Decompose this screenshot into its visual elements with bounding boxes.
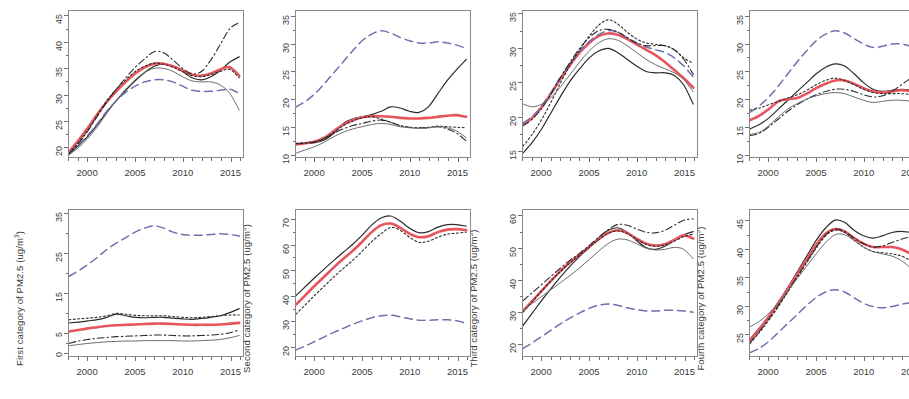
series-line-blue-long-dash: [69, 226, 239, 277]
x-tick-mark: [183, 357, 184, 361]
x-tick-label: 2005: [351, 167, 372, 178]
x-tick-mark-minor: [173, 357, 174, 360]
x-tick-mark: [816, 158, 817, 162]
x-tick-mark: [541, 357, 542, 361]
y-tick-label: 40: [54, 41, 64, 51]
x-tick-mark-minor: [902, 158, 903, 161]
panel-1: First category of PM2.5 (ug/m3)202530354…: [0, 0, 227, 199]
x-tick-label: 2005: [578, 366, 599, 377]
plot-frame: [522, 10, 698, 158]
series-line-blue-long-dash: [750, 31, 909, 113]
series-canvas: [523, 210, 697, 356]
x-tick-mark-minor: [656, 357, 657, 360]
x-tick-mark: [314, 158, 315, 162]
x-tick-mark-minor: [400, 357, 401, 360]
x-tick-mark-minor: [78, 158, 79, 161]
x-tick-label: 2010: [626, 366, 647, 377]
y-tick-label: 20: [54, 146, 64, 156]
series-line-black-dotted: [69, 313, 239, 319]
y-tick-label: 25: [54, 252, 64, 262]
series-canvas: [69, 11, 243, 157]
x-tick-mark-minor: [343, 158, 344, 161]
series-line-black-solid: [296, 59, 466, 143]
y-tick-label: 25: [735, 70, 745, 80]
x-tick-mark: [768, 158, 769, 162]
x-tick-mark-minor: [381, 357, 382, 360]
x-tick-mark-minor: [797, 357, 798, 360]
x-tick-label: 2015: [901, 167, 909, 178]
y-tick-label: 35: [54, 67, 64, 77]
plot-frame: [68, 10, 244, 158]
series-line-red-thick-solid: [69, 323, 239, 332]
y-tick-label: 30: [54, 94, 64, 104]
plot-frame: [295, 10, 471, 158]
x-tick-mark: [135, 158, 136, 162]
series-line-black-dotted: [296, 117, 466, 143]
x-tick-mark-minor: [532, 158, 533, 161]
x-tick-mark-minor: [68, 357, 69, 360]
x-tick-label: 2005: [351, 366, 372, 377]
x-axis: 2000200520102015: [522, 158, 698, 184]
x-tick-mark: [637, 158, 638, 162]
y-tick-label: 15: [281, 126, 291, 136]
x-tick-mark-minor: [656, 158, 657, 161]
y-tick-label: 30: [735, 305, 745, 315]
x-tick-mark-minor: [352, 357, 353, 360]
series-line-black-solid: [69, 309, 239, 323]
x-tick-mark-minor: [560, 158, 561, 161]
x-tick-mark-minor: [646, 158, 647, 161]
x-tick-mark-minor: [192, 357, 193, 360]
x-tick-mark: [589, 158, 590, 162]
x-tick-mark-minor: [391, 357, 392, 360]
x-tick-label: 2010: [399, 167, 420, 178]
series-line-red-thick-solid: [523, 230, 693, 311]
x-tick-mark-minor: [883, 357, 884, 360]
x-tick-mark-minor: [826, 357, 827, 360]
y-axis-ticks: 101520253035: [265, 10, 295, 158]
y-axis-ticks: 2030405060: [492, 209, 522, 357]
x-tick-mark-minor: [372, 158, 373, 161]
x-tick-mark-minor: [192, 158, 193, 161]
y-tick-label: 0: [54, 352, 64, 357]
y-tick-label: 20: [508, 343, 518, 353]
x-tick-mark-minor: [438, 357, 439, 360]
series-line-black-dash-dot: [69, 22, 239, 154]
y-tick-label: 30: [281, 320, 291, 330]
x-tick-label: 2005: [124, 366, 145, 377]
y-axis-ticks: 1520253035: [492, 10, 522, 158]
y-tick-label: 25: [54, 120, 64, 130]
series-line-black-dotted: [69, 63, 239, 153]
series-line-blue-long-dash: [296, 315, 466, 350]
x-tick-mark-minor: [787, 158, 788, 161]
x-tick-label: 2010: [853, 366, 874, 377]
y-tick-label: 40: [281, 295, 291, 305]
series-canvas: [69, 210, 243, 356]
x-tick-mark-minor: [749, 357, 750, 360]
x-tick-mark-minor: [787, 357, 788, 360]
panel-2: Second category of PM2.5 (ug/m3)10152025…: [227, 0, 454, 199]
x-tick-mark-minor: [429, 158, 430, 161]
x-tick-label: 2015: [901, 366, 909, 377]
x-tick-mark-minor: [106, 357, 107, 360]
y-tick-label: 15: [735, 126, 745, 136]
x-tick-mark-minor: [106, 158, 107, 161]
x-tick-mark-minor: [599, 158, 600, 161]
panel-5: Fifth category of PM2.5 (ug/m3)051525352…: [0, 199, 227, 398]
x-tick-mark-minor: [675, 158, 676, 161]
series-line-red-thick-solid: [69, 63, 239, 152]
y-tick-label: 20: [508, 116, 518, 126]
x-tick-mark-minor: [116, 357, 117, 360]
x-tick-mark-minor: [211, 357, 212, 360]
series-line-blue-long-dash: [523, 31, 693, 123]
x-tick-mark: [410, 158, 411, 162]
plot-area: 25303540452000200520102015: [719, 209, 908, 398]
y-tick-label: 25: [508, 81, 518, 91]
x-tick-mark-minor: [892, 158, 893, 161]
x-axis: 2000200520102015: [749, 158, 909, 184]
x-tick-mark: [589, 357, 590, 361]
y-tick-label: 35: [735, 15, 745, 25]
pm25-category-panel-figure: First category of PM2.5 (ug/m3)202530354…: [0, 0, 909, 399]
y-tick-label: 15: [508, 150, 518, 160]
x-tick-mark-minor: [125, 357, 126, 360]
y-tick-label: 10: [281, 154, 291, 164]
